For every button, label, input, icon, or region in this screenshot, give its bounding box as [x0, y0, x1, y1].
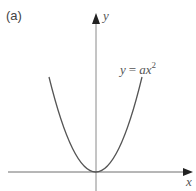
- parabola-figure: (a) y x y=ax2: [0, 0, 196, 191]
- y-axis-arrow-icon: [92, 13, 100, 24]
- x-axis-label: x: [185, 174, 192, 189]
- plot-canvas: y x y=ax2: [0, 0, 196, 191]
- curve-equation-label: y=ax2: [118, 60, 156, 77]
- x-axis: [8, 168, 193, 176]
- y-axis: [92, 13, 100, 191]
- y-axis-label: y: [101, 8, 109, 23]
